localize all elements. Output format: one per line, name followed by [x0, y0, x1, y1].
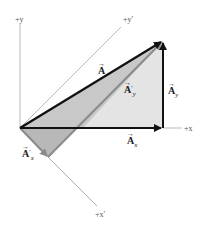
vector-ax-prime-label: →A′x	[22, 149, 34, 162]
vector-a-label: →A	[98, 66, 105, 76]
y-axis-label: +y	[15, 16, 24, 24]
arrow-over-icon: →	[124, 80, 131, 87]
arrow-over-icon: →	[127, 131, 134, 138]
vector-ay-label: →Ay	[168, 86, 178, 99]
vector-ay-prime-subscript: y	[133, 90, 136, 98]
vector-ax-prime-subscript: x	[31, 154, 34, 162]
vector-ay-prime-label: →A′y	[124, 85, 136, 98]
y-prime-axis-label: +y′	[123, 16, 133, 24]
x-prime-axis	[48, 157, 97, 206]
arrow-over-icon: →	[98, 61, 105, 68]
x-axis-label: +x	[184, 125, 193, 133]
x-prime-axis-label: +x′	[95, 211, 105, 219]
arrow-over-icon: →	[168, 81, 175, 88]
vector-diagram	[0, 0, 200, 227]
vector-ax-label: →Ax	[127, 136, 137, 149]
arrow-over-icon: →	[22, 144, 29, 151]
vector-ay-subscript: y	[175, 91, 178, 99]
vector-ax-subscript: x	[134, 141, 137, 149]
